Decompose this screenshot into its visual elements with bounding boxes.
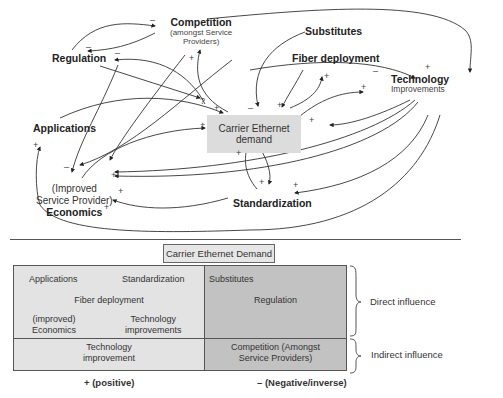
indirect-brace-icon [350, 339, 361, 373]
causal-loop-diagram: Competition (amongst Service Providers) … [0, 0, 503, 232]
cell-indirect-positive: Technology improvement [14, 339, 205, 370]
row-label-direct: Direct influence [370, 296, 435, 307]
technology-subtitle: Improvements [391, 85, 449, 95]
node-fiber-deployment: Fiber deployment [292, 52, 380, 64]
center-line-2: demand [218, 134, 289, 146]
sign-plus: + [236, 148, 241, 158]
sign-minus: – [248, 103, 253, 113]
sign-plus: + [111, 170, 116, 180]
node-applications: Applications [33, 122, 96, 134]
node-substitutes: Substitutes [305, 25, 362, 37]
indirect-positive-text-2: improvement [14, 353, 204, 364]
economics-text-2: Economics [32, 325, 76, 336]
economics-line-1: (Improved [36, 183, 113, 195]
sign-plus: + [425, 62, 430, 72]
node-economics: (Improved Service Provider) Economics [36, 183, 113, 218]
node-standardization: Standardization [233, 197, 312, 209]
column-label-negative: – (Negative/inverse) [257, 377, 347, 388]
sign-minus: – [150, 15, 155, 25]
cell-direct-positive: Applications Standardization Fiber deplo… [14, 266, 205, 339]
sign-plus: + [259, 177, 264, 187]
indirect-negative-text-1: Competition (Amongst [205, 342, 346, 353]
section-divider [10, 239, 461, 240]
node-regulation: Regulation [52, 52, 106, 64]
sign-plus: + [33, 140, 38, 150]
node-competition: Competition (amongst Service Providers) [170, 16, 232, 46]
sign-minus: – [64, 162, 69, 172]
sign-plus: + [361, 82, 366, 92]
sign-plus: + [309, 115, 314, 125]
sign-plus: + [189, 53, 194, 63]
center-line-1: Carrier Ethernet [218, 123, 289, 135]
competition-subtitle-2: Providers) [170, 37, 232, 46]
cell-direct-negative: Substitutes Regulation [205, 266, 346, 339]
economics-text-1: (improved) [32, 314, 76, 325]
node-carrier-ethernet-demand: Carrier Ethernet demand [207, 115, 301, 153]
technology-text-1: Technology [125, 314, 182, 325]
node-technology: Technology Improvements [391, 73, 449, 95]
technology-text-2: improvements [125, 325, 182, 336]
sign-plus: + [104, 202, 109, 212]
sign-minus: – [115, 48, 120, 58]
item-applications: Applications [29, 274, 78, 284]
sign-question: ? [200, 96, 205, 106]
item-standardization: Standardization [122, 274, 185, 284]
item-technology-improvements: Technology improvements [125, 314, 182, 336]
indirect-negative-text-2: Service Providers) [205, 353, 346, 364]
column-label-positive: + (positive) [84, 377, 134, 388]
sign-plus: + [277, 100, 282, 110]
influence-matrix: Applications Standardization Fiber deplo… [13, 265, 347, 371]
item-fiber-deployment: Fiber deployment [14, 295, 204, 305]
economics-line-2: Service Provider) [36, 195, 113, 207]
sign-minus: – [373, 66, 378, 76]
indirect-positive-text-1: Technology [14, 342, 204, 353]
economics-line-3: Economics [36, 206, 113, 218]
sign-plus: + [200, 120, 205, 130]
row-label-indirect: Indirect influence [371, 349, 443, 360]
item-regulation: Regulation [205, 295, 346, 305]
sign-plus: + [324, 71, 329, 81]
legend-title: Carrier Ethernet Demand [163, 244, 275, 263]
sign-minus: – [86, 42, 91, 52]
item-substitutes: Substitutes [209, 274, 254, 284]
sign-plus: + [214, 103, 219, 113]
sign-plus: + [293, 180, 298, 190]
item-improved-economics: (improved) Economics [32, 314, 76, 336]
competition-title: Competition [170, 16, 232, 28]
competition-subtitle-1: (amongst Service [170, 28, 232, 37]
brace-icons [348, 262, 368, 376]
cell-indirect-negative: Competition (Amongst Service Providers) [205, 339, 346, 370]
sign-plus: + [118, 186, 123, 196]
direct-brace-icon [350, 266, 361, 336]
